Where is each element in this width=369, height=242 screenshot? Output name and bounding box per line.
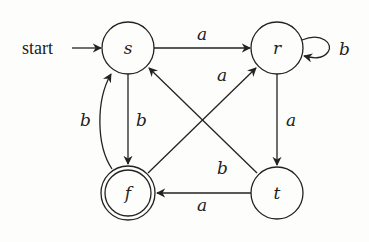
- edge-line: [149, 68, 257, 173]
- edge-line: [148, 68, 256, 173]
- state-r: r: [251, 22, 303, 74]
- state-label: s: [124, 38, 133, 58]
- edge-t-to-f: a: [157, 193, 251, 215]
- edge-label: b: [80, 110, 91, 130]
- edge-label: a: [217, 65, 227, 85]
- edge-r-self-loop: b: [302, 37, 350, 59]
- automaton-diagram: start a b b b a b a: [0, 0, 369, 242]
- state-label: r: [273, 38, 282, 58]
- edge-label: a: [197, 24, 207, 44]
- start-indicator: start: [22, 38, 101, 58]
- edge-t-to-s: b: [149, 68, 257, 178]
- diagram-svg: start a b b b a b a: [0, 0, 369, 242]
- state-label: t: [274, 183, 281, 203]
- edge-s-to-f: b: [128, 74, 147, 164]
- state-f-accepting: f: [101, 166, 155, 220]
- start-label: start: [22, 38, 53, 58]
- edge-f-to-s: b: [80, 74, 112, 169]
- edge-label: a: [286, 110, 296, 130]
- edge-label: b: [136, 110, 147, 130]
- edge-label: b: [217, 158, 228, 178]
- state-t: t: [251, 167, 303, 219]
- state-label: f: [123, 183, 134, 203]
- state-s: s: [102, 22, 154, 74]
- edge-line: [100, 74, 112, 169]
- edge-line: [302, 37, 330, 57]
- edge-label: a: [197, 195, 207, 215]
- edge-s-to-r: a: [154, 24, 250, 48]
- edge-label: b: [339, 39, 350, 59]
- edge-r-to-t: a: [277, 74, 296, 165]
